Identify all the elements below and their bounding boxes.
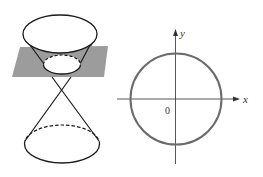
generator-a xyxy=(52,77,99,141)
x-axis-arrow-icon xyxy=(233,97,240,102)
y-axis-label: y xyxy=(179,27,185,39)
x-axis-label: x xyxy=(242,93,248,105)
generator-b xyxy=(25,77,71,141)
lower-rim-back-dashed xyxy=(25,125,100,144)
conic-section-figure: x y 0 xyxy=(0,0,263,177)
lower-rim-front xyxy=(25,144,100,163)
lower-nappe xyxy=(25,77,99,141)
origin-label: 0 xyxy=(165,105,170,116)
circle-graph: x y 0 xyxy=(117,27,248,164)
double-cone-diagram xyxy=(12,15,108,163)
upper-rim xyxy=(23,15,97,53)
y-axis-arrow-icon xyxy=(173,29,178,36)
